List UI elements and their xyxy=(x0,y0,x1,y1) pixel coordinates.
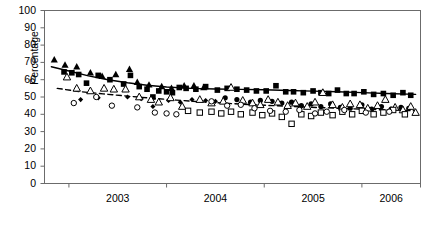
data-point-open-triangle xyxy=(110,85,117,92)
y-tick-label: 70 xyxy=(6,55,36,67)
data-point-open-circle xyxy=(94,94,99,99)
plot-frame xyxy=(45,11,421,184)
data-point-filled-square xyxy=(310,88,316,94)
data-point-filled-square xyxy=(215,87,221,93)
data-point-filled-square xyxy=(390,92,396,98)
data-point-open-circle xyxy=(209,99,214,104)
data-point-filled-diamond xyxy=(125,94,130,99)
data-point-filled-square xyxy=(263,88,269,94)
data-point-open-circle xyxy=(152,110,157,115)
data-point-open-triangle xyxy=(100,84,107,91)
data-point-filled-square xyxy=(273,83,279,89)
data-point-open-circle xyxy=(312,111,317,116)
data-point-open-triangle xyxy=(87,87,94,94)
data-point-filled-square xyxy=(164,89,170,95)
data-point-open-triangle xyxy=(73,84,80,91)
data-point-open-square xyxy=(371,112,376,117)
data-point-filled-square xyxy=(244,87,250,93)
data-point-open-triangle xyxy=(311,98,318,105)
data-point-open-triangle xyxy=(196,96,203,103)
data-point-open-circle xyxy=(342,107,347,112)
data-point-open-square xyxy=(381,110,386,115)
data-point-filled-triangle xyxy=(87,69,94,75)
data-point-open-square xyxy=(289,121,294,126)
x-tick-label: 2005 xyxy=(283,192,343,204)
data-point-filled-triangle xyxy=(73,63,80,69)
data-point-filled-triangle xyxy=(190,82,197,88)
data-point-open-circle xyxy=(252,106,257,111)
data-point-open-square xyxy=(209,109,214,114)
data-point-filled-square xyxy=(343,91,349,97)
y-tick-label: 80 xyxy=(6,38,36,50)
x-tick-label: 2006 xyxy=(361,192,421,204)
data-point-open-circle xyxy=(387,109,392,114)
data-point-filled-square xyxy=(351,91,357,97)
x-tick-label: 2003 xyxy=(88,192,148,204)
x-tick-label: 2004 xyxy=(185,192,245,204)
y-tick-label: 50 xyxy=(6,90,36,102)
data-point-open-circle xyxy=(363,110,368,115)
data-point-open-square xyxy=(279,114,284,119)
y-tick-label: 0 xyxy=(6,177,36,189)
data-point-filled-square xyxy=(371,92,377,98)
data-point-open-square xyxy=(238,112,243,117)
data-point-open-circle xyxy=(71,100,76,105)
data-point-filled-diamond xyxy=(78,97,83,102)
data-point-filled-triangle xyxy=(112,71,119,77)
data-point-filled-square xyxy=(408,92,414,98)
data-point-open-square xyxy=(318,110,323,115)
data-point-filled-square xyxy=(128,73,134,79)
y-tick-label: 10 xyxy=(6,159,36,171)
data-point-open-square xyxy=(349,112,354,117)
data-point-filled-square xyxy=(335,87,341,93)
data-point-filled-square xyxy=(400,90,406,96)
data-point-open-circle xyxy=(174,112,179,117)
data-point-filled-square xyxy=(291,89,297,95)
data-point-filled-square xyxy=(234,86,240,92)
data-point-open-circle xyxy=(135,105,140,110)
y-tick-label: 100 xyxy=(6,4,36,16)
data-point-open-square xyxy=(260,112,265,117)
data-point-open-square xyxy=(197,110,202,115)
y-tick-label: 30 xyxy=(6,125,36,137)
data-point-filled-triangle xyxy=(145,81,152,87)
data-point-open-circle xyxy=(297,107,302,112)
y-tick-label: 90 xyxy=(6,21,36,33)
data-point-filled-triangle xyxy=(51,56,58,62)
data-point-filled-square xyxy=(76,72,82,78)
data-point-filled-circle xyxy=(234,97,239,102)
data-point-open-circle xyxy=(238,102,243,107)
data-point-filled-triangle xyxy=(126,66,133,72)
data-point-open-triangle xyxy=(257,101,264,108)
data-point-open-square xyxy=(185,108,190,113)
data-point-filled-triangle xyxy=(134,79,141,85)
data-point-filled-square xyxy=(84,80,90,86)
data-point-open-circle xyxy=(109,103,114,108)
y-tick-label: 60 xyxy=(6,73,36,85)
data-point-open-triangle xyxy=(264,96,271,103)
y-tick-label: 20 xyxy=(6,142,36,154)
data-point-open-square xyxy=(219,111,224,116)
data-point-open-circle xyxy=(224,103,229,108)
data-point-filled-square xyxy=(107,77,113,83)
data-point-filled-square xyxy=(61,69,67,75)
data-point-filled-square xyxy=(301,90,307,96)
data-point-open-circle xyxy=(324,109,329,114)
data-point-filled-square xyxy=(69,70,75,76)
data-point-open-circle xyxy=(283,109,288,114)
y-tick-label: 40 xyxy=(6,107,36,119)
data-point-open-square xyxy=(330,112,335,117)
data-point-open-square xyxy=(228,109,233,114)
data-point-filled-square xyxy=(361,89,367,95)
data-point-open-circle xyxy=(267,108,272,113)
series-filled-square xyxy=(61,69,413,100)
data-point-open-triangle xyxy=(382,96,389,103)
data-point-open-triangle xyxy=(346,100,353,107)
data-point-filled-square xyxy=(254,88,260,94)
data-point-filled-triangle xyxy=(61,61,68,67)
data-point-open-circle xyxy=(164,111,169,116)
chart-container: Percentage 01020304050607080901002003200… xyxy=(0,0,430,229)
data-point-open-square xyxy=(402,112,407,117)
data-point-filled-square xyxy=(283,89,289,95)
